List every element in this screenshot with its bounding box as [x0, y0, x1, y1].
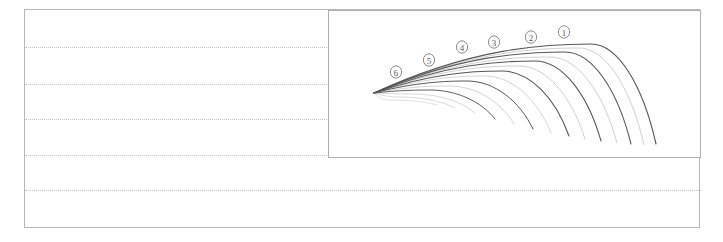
- curve-label-marker: 4: [456, 41, 467, 53]
- trajectory-curve-7: [374, 93, 455, 108]
- trajectory-curve-1b: [374, 48, 644, 145]
- curves-group: [374, 44, 656, 145]
- chart-panel: 123456: [328, 10, 701, 158]
- curve-label-text: 4: [460, 43, 465, 53]
- curve-label-marker: 3: [488, 36, 499, 48]
- document-page: 123456: [0, 0, 723, 242]
- curve-label-text: 6: [394, 68, 399, 78]
- trajectory-curve-5: [374, 81, 533, 129]
- curve-label-text: 3: [492, 38, 497, 48]
- ruled-line: [25, 190, 701, 191]
- trajectory-curve-3: [374, 61, 601, 141]
- curve-label-text: 2: [529, 33, 534, 43]
- trajectory-curves-chart: 123456: [329, 11, 701, 158]
- curve-label-marker: 2: [525, 31, 536, 43]
- curve-label-text: 1: [562, 28, 567, 38]
- trajectory-curve-2b: [374, 57, 617, 143]
- curve-label-marker: 5: [423, 54, 434, 66]
- trajectory-curve-6b: [374, 93, 475, 113]
- trajectory-curve-3b: [374, 66, 585, 139]
- trajectory-curve-2: [374, 52, 631, 144]
- curve-label-text: 5: [427, 56, 432, 66]
- trajectory-curve-5b: [374, 86, 514, 124]
- curve-label-marker: 1: [558, 26, 569, 38]
- curve-label-marker: 6: [390, 66, 401, 78]
